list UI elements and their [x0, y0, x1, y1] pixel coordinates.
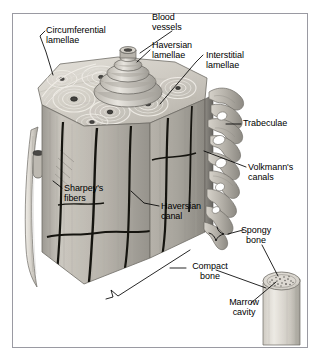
- label-marrow-cavity: Marrow cavity: [221, 298, 267, 317]
- periosteum-flap: [25, 127, 43, 287]
- label-haversian-lamellae: Haversian lamellae: [152, 41, 192, 60]
- compact-bone-shaft-right: [150, 99, 205, 258]
- label-circumferential-lamellae: Circumferential lamellae: [46, 26, 106, 45]
- label-sharpeys-fibers: Sharpey's fibers: [64, 184, 103, 203]
- label-haversian-canal: Haversian canal: [161, 202, 201, 221]
- label-blood-vessels: Blood vessels: [152, 13, 182, 32]
- label-trabeculae: Trabeculae: [243, 119, 287, 129]
- label-spongy-bone: Spongy bone: [235, 226, 277, 245]
- bone-anatomy-figure: Circumferential lamellae Blood vessels H…: [0, 0, 318, 359]
- label-interstitial-lamellae: Interstitial lamellae: [206, 51, 244, 70]
- long-bone-cylinder: [263, 272, 300, 345]
- label-volkmanns-canals: Volkmann's canals: [248, 163, 293, 182]
- label-compact-bone: Compact bone: [188, 262, 232, 281]
